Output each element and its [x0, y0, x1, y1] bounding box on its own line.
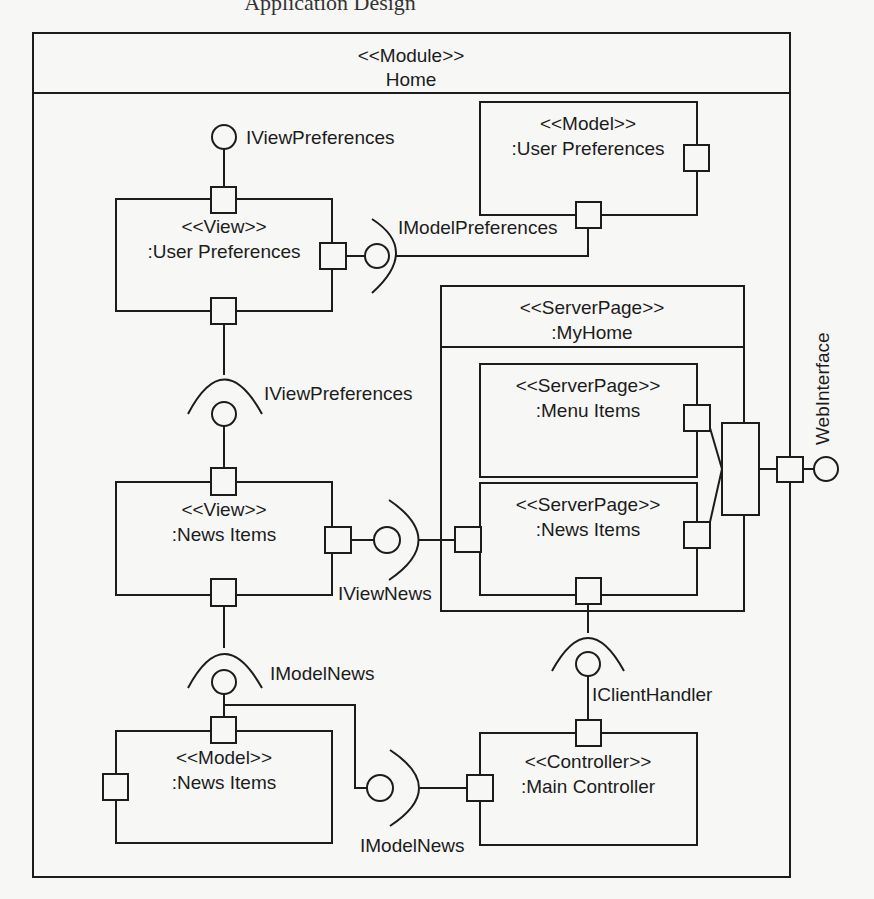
port-icon	[576, 202, 601, 228]
port-icon	[777, 457, 803, 482]
assembly-iviewnews: IViewNews	[338, 500, 455, 604]
port-icon	[576, 578, 601, 604]
socket-icon	[390, 750, 419, 826]
port-icon	[211, 468, 236, 495]
uml-component-diagram: Application Design <<Module>> Home <<Vie…	[0, 0, 874, 899]
component-model-user-preferences: <<Model>> :User Preferences	[480, 102, 709, 228]
interface-label: WebInterface	[812, 332, 833, 445]
delegation-port-icon	[722, 423, 759, 515]
port-icon	[684, 405, 710, 431]
component-stereotype: <<View>>	[181, 216, 266, 237]
component-name: :News Items	[536, 519, 641, 540]
port-icon	[684, 522, 710, 548]
ball-icon	[576, 652, 600, 676]
port-icon	[325, 527, 351, 553]
component-name: :Menu Items	[536, 400, 641, 421]
ball-icon	[212, 670, 236, 694]
port-icon	[211, 187, 236, 213]
component-stereotype: <<Controller>>	[525, 751, 652, 772]
component-model-news-items: <<Model>> :News Items	[103, 717, 332, 843]
figure-caption-fragment: Application Design	[244, 0, 416, 15]
port-icon	[684, 145, 709, 171]
assembly-iclienthandler: IClientHandler	[552, 604, 713, 720]
interface-label: IViewPreferences	[264, 383, 413, 404]
module-home: <<Module>> Home	[33, 33, 790, 877]
module-stereotype: <<Module>>	[358, 45, 465, 66]
interface-label: IModelNews	[270, 663, 375, 684]
ball-icon	[212, 402, 236, 426]
component-stereotype: <<ServerPage>>	[516, 375, 661, 396]
port-icon	[211, 717, 236, 743]
component-name: :News Items	[172, 772, 277, 793]
component-stereotype: <<ServerPage>>	[516, 494, 661, 515]
module-frame	[33, 33, 790, 877]
port-icon	[320, 243, 346, 269]
provided-interface-webinterface: WebInterface	[777, 332, 838, 482]
interface-label: IClientHandler	[592, 684, 713, 705]
lollipop-ball-icon	[814, 457, 838, 481]
lollipop-ball-icon	[212, 125, 236, 149]
interface-label: IViewNews	[338, 583, 432, 604]
required-ball-imodelpreferences-icon	[365, 244, 389, 268]
ball-icon	[374, 527, 400, 553]
component-name: :User Preferences	[511, 138, 664, 159]
component-main-controller: <<Controller>> :Main Controller	[467, 720, 697, 845]
component-serverpage-menu-items: <<ServerPage>> :Menu Items	[480, 364, 710, 477]
interface-label: IModelNews	[360, 835, 465, 856]
port-icon	[455, 527, 481, 552]
component-serverpage-myhome: <<ServerPage>> :MyHome	[441, 286, 744, 611]
component-name: :News Items	[172, 524, 277, 545]
component-stereotype: <<ServerPage>>	[520, 297, 665, 318]
component-stereotype: <<View>>	[181, 499, 266, 520]
assembly-iviewpreferences: IViewPreferences	[188, 380, 413, 469]
interface-label: IViewPreferences	[246, 127, 395, 148]
component-name: :Main Controller	[521, 776, 656, 797]
component-serverpage-news-items: <<ServerPage>> :News Items	[455, 483, 710, 604]
port-icon	[103, 774, 128, 800]
component-name: :User Preferences	[147, 241, 300, 262]
module-name: Home	[386, 69, 437, 90]
ball-icon	[367, 775, 393, 801]
component-view-user-preferences: <<View>> :User Preferences	[116, 199, 332, 311]
assembly-imodelnews-upper: IModelNews	[188, 606, 375, 717]
component-view-news-items: <<View>> :News Items	[116, 468, 351, 606]
port-icon	[576, 720, 601, 746]
port-icon	[467, 775, 493, 801]
port-icon	[211, 579, 236, 606]
port-icon	[211, 298, 236, 324]
component-name: :MyHome	[551, 322, 632, 343]
component-stereotype: <<Model>>	[176, 747, 272, 768]
interface-label-imodelpreferences: IModelPreferences	[398, 217, 557, 238]
component-stereotype: <<Model>>	[540, 113, 636, 134]
